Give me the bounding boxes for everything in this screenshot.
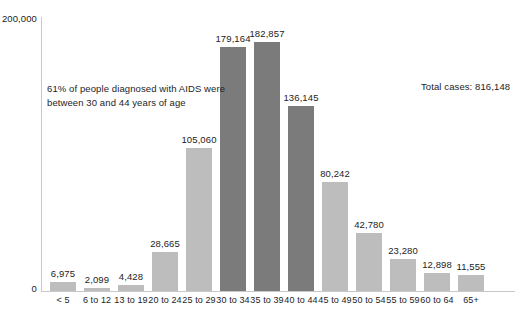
bar[interactable] (118, 285, 144, 291)
x-axis-category-label: 50 to 54 (352, 295, 386, 305)
plot-area: 6,9752,0994,42828,665105,060179,164182,8… (42, 0, 520, 291)
bar[interactable] (458, 275, 484, 291)
x-axis-category-label: < 5 (46, 295, 80, 305)
bar-value-label: 2,099 (85, 274, 109, 285)
bar-value-label: 23,280 (388, 245, 418, 256)
x-axis-category-label: 13 to 19 (114, 295, 148, 305)
bar-value-label: 12,898 (422, 259, 452, 270)
bar-value-label: 136,145 (283, 92, 318, 103)
bar-group: 42,780 (352, 0, 386, 291)
bar-value-label: 42,780 (354, 219, 384, 230)
bar-value-label: 179,164 (215, 33, 250, 44)
bar-group: 179,164 (216, 0, 250, 291)
x-axis-category-label: 25 to 29 (182, 295, 216, 305)
bar-chart: 200,000 0 6,9752,0994,42828,665105,06017… (0, 0, 520, 312)
total-cases-label: Total cases: 816,148 (421, 81, 510, 92)
x-axis-category-label: 40 to 44 (284, 295, 318, 305)
bar-value-label: 182,857 (249, 28, 284, 39)
bar[interactable] (390, 259, 416, 291)
x-axis-category-label: 55 to 59 (386, 295, 420, 305)
bar-value-label: 28,665 (150, 238, 180, 249)
bar-group: 6,975 (46, 0, 80, 291)
bar-group: 4,428 (114, 0, 148, 291)
bar[interactable] (288, 106, 314, 291)
bar-group: 2,099 (80, 0, 114, 291)
bar-group: 28,665 (148, 0, 182, 291)
bar[interactable] (186, 148, 212, 291)
bar[interactable] (322, 182, 348, 291)
annotation-line-1: 61% of people diagnosed with AIDS were (47, 83, 225, 94)
bar-group: 11,555 (454, 0, 488, 291)
bar-value-label: 6,975 (51, 268, 75, 279)
x-axis-category-label: 6 to 12 (80, 295, 114, 305)
bar[interactable] (84, 288, 110, 291)
bar[interactable] (152, 252, 178, 291)
bar-value-label: 4,428 (119, 271, 143, 282)
bar-value-label: 11,555 (457, 261, 486, 272)
x-axis-line (41, 291, 515, 292)
bar[interactable] (356, 233, 382, 291)
y-axis-tick-label-zero: 0 (0, 283, 37, 294)
bar-group: 182,857 (250, 0, 284, 291)
bar-value-label: 80,242 (320, 168, 350, 179)
bar-group: 23,280 (386, 0, 420, 291)
bar-group: 80,242 (318, 0, 352, 291)
bar[interactable] (424, 273, 450, 291)
x-axis-category-label: 20 to 24 (148, 295, 182, 305)
annotation-line-2: between 30 and 44 years of age (47, 97, 186, 108)
x-axis-category-label: 60 to 64 (420, 295, 454, 305)
bar[interactable] (254, 42, 280, 291)
bar-value-label: 105,060 (181, 134, 216, 145)
x-axis-category-label: 30 to 34 (216, 295, 250, 305)
y-axis-tick-label-max: 200,000 (0, 13, 37, 24)
bar-group: 12,898 (420, 0, 454, 291)
bar[interactable] (50, 282, 76, 291)
x-axis-category-label: 45 to 49 (318, 295, 352, 305)
x-axis-category-label: 35 to 39 (250, 295, 284, 305)
annotation-percentage-note: 61% of people diagnosed with AIDS were b… (47, 82, 262, 110)
x-axis-category-label: 65+ (454, 295, 488, 305)
bar-group: 105,060 (182, 0, 216, 291)
bar-group: 136,145 (284, 0, 318, 291)
